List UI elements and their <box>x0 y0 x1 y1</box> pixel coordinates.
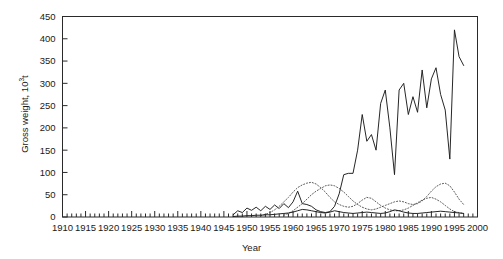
line-chart-plot: 050100150200250300350400450 191019151920… <box>0 0 503 259</box>
plot-frame <box>63 17 478 218</box>
x-tick-label: 1945 <box>213 222 234 233</box>
y-tick-label: 400 <box>40 33 56 44</box>
y-tick-label: 100 <box>40 167 56 178</box>
x-tick-label: 1995 <box>444 222 465 233</box>
chart-figure: 050100150200250300350400450 191019151920… <box>0 0 503 259</box>
x-tick-label: 1970 <box>329 222 350 233</box>
y-tick-label: 350 <box>40 55 56 66</box>
y-tick-label: 450 <box>40 11 56 22</box>
x-tick-label: 1910 <box>52 222 73 233</box>
plot-border <box>63 17 478 218</box>
y-axis-tick-labels: 050100150200250300350400450 <box>40 11 56 223</box>
x-tick-label: 2000 <box>467 222 488 233</box>
y-tick-label: 200 <box>40 122 56 133</box>
x-tick-label: 1990 <box>421 222 442 233</box>
x-tick-label: 1950 <box>236 222 257 233</box>
y-axis-title-exponent: 3 <box>18 78 25 82</box>
x-tick-label: 1980 <box>375 222 396 233</box>
y-tick-label: 300 <box>40 78 56 89</box>
x-tick-label: 1930 <box>144 222 165 233</box>
x-tick-label: 1925 <box>121 222 142 233</box>
x-tick-label: 1955 <box>259 222 280 233</box>
x-tick-label: 1960 <box>282 222 303 233</box>
y-axis-title-text: Gross weight, 10 <box>19 82 30 153</box>
y-tick-label: 250 <box>40 100 56 111</box>
x-tick-label: 1915 <box>75 222 96 233</box>
x-tick-label: 1985 <box>398 222 419 233</box>
x-tick-label: 1920 <box>98 222 119 233</box>
x-tick-label: 1975 <box>352 222 373 233</box>
x-axis-title: Year <box>0 242 503 253</box>
x-tick-label: 1935 <box>167 222 188 233</box>
y-axis-title: Gross weight, 103t <box>18 54 30 174</box>
x-tick-label: 1965 <box>306 222 327 233</box>
y-tick-label: 150 <box>40 145 56 156</box>
y-axis-title-unit: t <box>19 75 30 78</box>
x-tick-label: 1940 <box>190 222 211 233</box>
y-tick-label: 50 <box>45 189 56 200</box>
x-axis-tick-labels: 1910191519201925193019351940194519501955… <box>52 222 488 233</box>
y-tick-label: 0 <box>50 211 55 222</box>
